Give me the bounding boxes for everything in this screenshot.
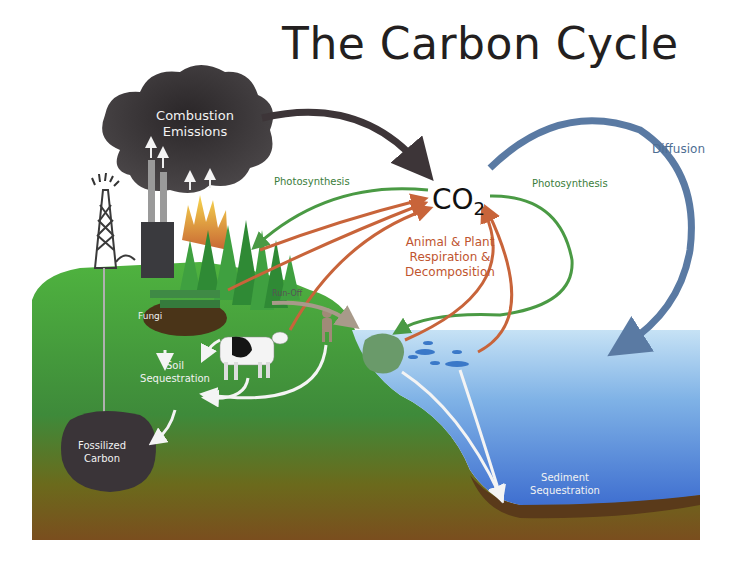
fungi-label: Fungi xyxy=(138,311,162,322)
soil-sequestration-label: Soil Sequestration xyxy=(130,360,220,385)
photosynthesis-left-label: Photosynthesis xyxy=(274,176,350,189)
carbon-cycle-scene xyxy=(0,0,736,569)
runoff-label: Run-Off xyxy=(272,289,302,299)
sediment-sequestration-label: Sediment Sequestration xyxy=(520,472,610,497)
diffusion-label: Diffusion xyxy=(652,142,705,157)
combustion-to-co2-arrow xyxy=(262,112,420,165)
forest-fire-icon xyxy=(182,195,228,250)
co2-label: CO2 xyxy=(432,183,485,219)
photosynthesis-right-label: Photosynthesis xyxy=(532,178,608,191)
respiration-decomposition-label: Animal & Plant Respiration & Decompositi… xyxy=(388,235,512,280)
combustion-emissions-label: Combustion Emissions xyxy=(140,108,250,141)
fossilized-carbon-label: Fossilized Carbon xyxy=(62,440,142,465)
aquatic-plant-icon xyxy=(362,333,404,373)
